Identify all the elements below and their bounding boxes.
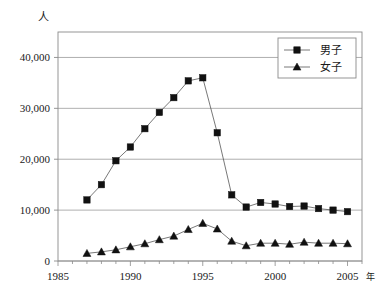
- legend-label-1: 男子: [320, 44, 342, 56]
- x-tick-label: 1990: [119, 270, 142, 282]
- y-tick-label: 40,000: [20, 51, 51, 63]
- data-point-triangle: [184, 225, 192, 232]
- y-tick-label: 10,000: [20, 204, 51, 216]
- series-2: [83, 219, 352, 256]
- data-point-square: [142, 125, 148, 131]
- legend-marker-square: [294, 47, 300, 53]
- y-axis-tick-labels: 010,00020,00030,00040,000: [20, 51, 51, 267]
- data-point-square: [214, 130, 220, 136]
- data-point-triangle: [213, 225, 221, 232]
- x-axis-tick-labels: 19851990199520002005: [47, 270, 359, 282]
- data-point-square: [171, 94, 177, 100]
- data-point-triangle: [329, 239, 337, 246]
- x-tick-label: 1995: [192, 270, 215, 282]
- y-tick-label: 0: [45, 255, 51, 267]
- gridlines: [58, 57, 362, 261]
- data-point-square: [344, 208, 350, 214]
- data-point-square: [315, 205, 321, 211]
- chart-legend: 男子女子: [278, 38, 356, 78]
- data-point-square: [113, 158, 119, 164]
- data-point-triangle: [170, 232, 178, 239]
- data-point-square: [257, 199, 263, 205]
- x-axis-ticks: [58, 261, 362, 266]
- y-axis-tick-marks: [54, 57, 58, 261]
- legend-label-2: 女子: [320, 60, 342, 73]
- data-point-triangle: [199, 219, 207, 226]
- series-line: [87, 78, 348, 212]
- series-1: [84, 75, 351, 215]
- legend-box: [278, 38, 356, 78]
- x-tick-label: 2005: [337, 270, 360, 282]
- y-tick-label: 20,000: [20, 153, 51, 165]
- data-point-triangle: [271, 239, 279, 246]
- data-point-square: [200, 75, 206, 81]
- data-point-square: [185, 78, 191, 84]
- data-point-square: [229, 192, 235, 198]
- data-series-layer: [83, 75, 352, 257]
- chart-container: 人 年 010,00020,00030,00040,000 1985199019…: [0, 0, 383, 295]
- data-point-square: [272, 201, 278, 207]
- data-point-square: [330, 207, 336, 213]
- y-tick-label: 30,000: [20, 102, 51, 114]
- x-tick-label: 1985: [47, 270, 70, 282]
- data-point-triangle: [300, 238, 308, 245]
- data-point-square: [286, 203, 292, 209]
- data-point-triangle: [228, 237, 236, 244]
- data-point-square: [127, 144, 133, 150]
- x-tick-label: 2000: [264, 270, 287, 282]
- data-point-triangle: [257, 239, 265, 246]
- data-point-square: [98, 181, 104, 187]
- chart-plot: 010,00020,00030,00040,000 19851990199520…: [0, 0, 383, 295]
- data-point-square: [301, 203, 307, 209]
- data-point-square: [84, 197, 90, 203]
- data-point-square: [156, 109, 162, 115]
- data-point-square: [243, 204, 249, 210]
